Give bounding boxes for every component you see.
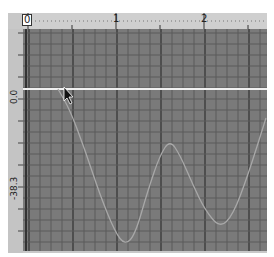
amplitude-label-min: -38.3 [9,177,19,200]
time-tick-label-1: 1 [113,14,119,24]
plot-overlay [0,0,274,257]
time-tick-label-2: 2 [201,14,207,24]
waveform-line [58,89,266,242]
time-origin-label: 0 [22,14,32,26]
amplitude-label-zero: 0.0 [9,90,19,104]
